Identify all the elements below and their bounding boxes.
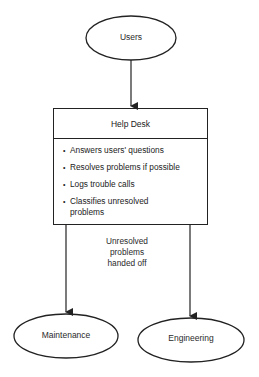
duty-item: Classifies unresolved problems: [64, 196, 180, 218]
help-desk-duties: Answers users' questions Resolves proble…: [54, 139, 207, 218]
handoff-line: Unresolved: [96, 236, 158, 247]
handoff-line: handed off: [96, 258, 158, 269]
maintenance-node-label: Maintenance: [26, 330, 106, 340]
duty-item: Answers users' questions: [64, 145, 203, 156]
engineering-node-label: Engineering: [151, 333, 231, 343]
handoff-line: problems: [96, 247, 158, 258]
help-desk-title: Help Desk: [54, 109, 207, 139]
duty-item: Logs trouble calls: [64, 179, 203, 190]
users-node-label: Users: [111, 32, 151, 42]
help-desk-node: Help Desk Answers users' questions Resol…: [53, 108, 208, 225]
duty-item: Resolves problems if possible: [64, 162, 203, 173]
handoff-label: Unresolved problems handed off: [96, 236, 158, 269]
